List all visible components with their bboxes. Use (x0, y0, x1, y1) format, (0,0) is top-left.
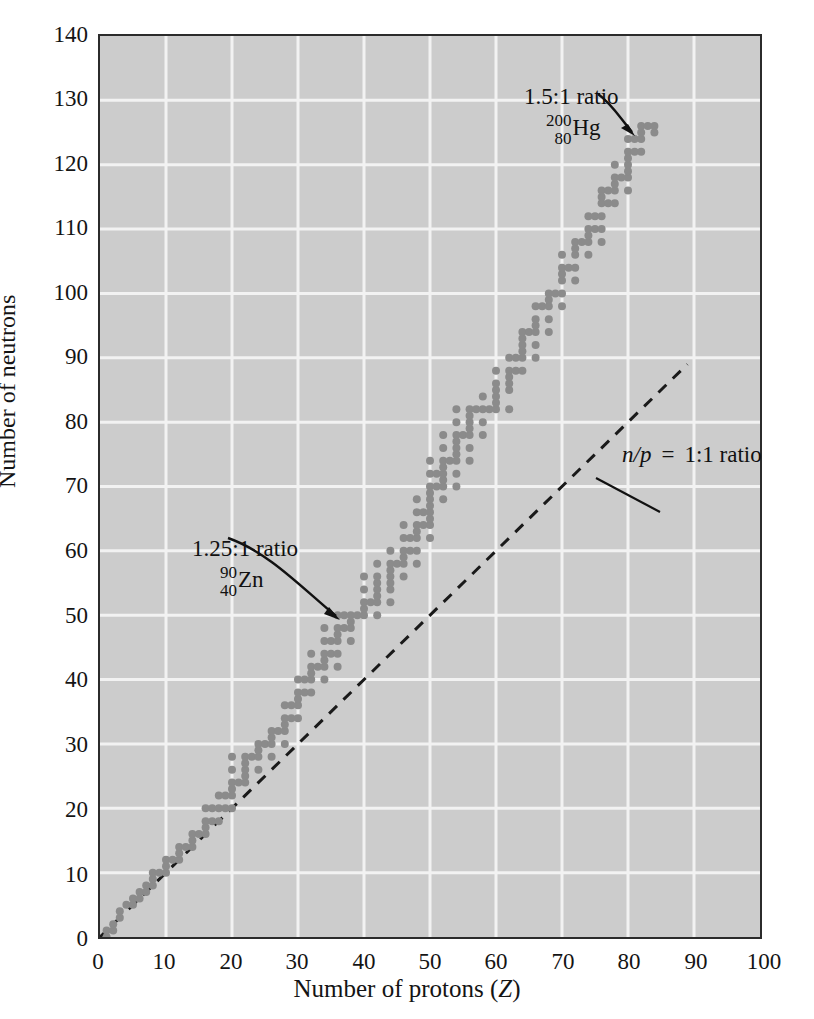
y-tick-70: 70 (32, 473, 88, 499)
annotation-hg-numbers: 20080 (546, 112, 572, 147)
annotation-zn-numbers: 9040 (220, 564, 237, 599)
y-tick-30: 30 (32, 732, 88, 758)
y-tick-90: 90 (32, 344, 88, 370)
annotation-hg-isotope: 20080Hg (546, 112, 601, 147)
band-of-stability-figure: Number of neutrons 140 130 120 110 100 9… (0, 0, 814, 1019)
y-axis-title: Number of neutrons (0, 295, 21, 488)
annotation-zn-isotope: 9040Zn (220, 564, 264, 599)
y-tick-140: 140 (32, 22, 88, 48)
x-axis-title-close: ) (512, 975, 520, 1002)
annotation-np-n: n (622, 442, 634, 467)
x-tick-10: 10 (153, 949, 176, 975)
y-tick-20: 20 (32, 797, 88, 823)
x-axis-title-main: Number of protons ( (293, 975, 498, 1002)
x-axis-title: Number of protons (Z) (293, 975, 520, 1003)
annotation-hg-ratio: 1.5:1 ratio (524, 85, 619, 109)
annotation-hg: 1.5:1 ratio 20080Hg (524, 85, 619, 147)
y-tick-110: 110 (32, 215, 88, 241)
y-tick-100: 100 (32, 280, 88, 306)
y-tick-60: 60 (32, 538, 88, 564)
x-tick-50: 50 (419, 949, 442, 975)
annotation-zn-ratio: 1.25:1 ratio (192, 537, 298, 561)
y-tick-80: 80 (32, 409, 88, 435)
x-tick-80: 80 (618, 949, 641, 975)
x-tick-90: 90 (685, 949, 708, 975)
x-tick-60: 60 (485, 949, 508, 975)
annotation-hg-atomic-number: 80 (546, 130, 572, 147)
plot-canvas (100, 36, 760, 937)
np-ratio-dashed-line (100, 364, 687, 937)
y-tick-50: 50 (32, 603, 88, 629)
data-points (103, 122, 659, 937)
annotation-zn: 1.25:1 ratio 9040Zn (192, 537, 298, 599)
y-tick-120: 120 (32, 151, 88, 177)
y-tick-130: 130 (32, 86, 88, 112)
annotation-hg-mass-number: 200 (546, 112, 572, 129)
annotation-np-ratio-text: 1:1 ratio (684, 442, 761, 467)
x-axis-title-symbol: Z (498, 975, 512, 1002)
y-tick-40: 40 (32, 667, 88, 693)
annotation-np-equals: = (661, 442, 674, 467)
x-tick-0: 0 (92, 949, 104, 975)
x-tick-40: 40 (353, 949, 376, 975)
x-tick-30: 30 (286, 949, 309, 975)
y-tick-0: 0 (32, 926, 88, 952)
annotation-zn-mass-number: 90 (220, 564, 237, 581)
annotation-zn-atomic-number: 40 (220, 582, 237, 599)
annotation-hg-symbol: Hg (573, 115, 601, 140)
y-tick-10: 10 (32, 862, 88, 888)
plot-area (98, 34, 762, 939)
annotation-np-p: p (640, 442, 652, 467)
x-tick-20: 20 (220, 949, 243, 975)
x-tick-70: 70 (552, 949, 575, 975)
annotation-np-ratio: n/p=1:1 ratio (622, 443, 762, 467)
x-tick-100: 100 (747, 949, 782, 975)
annotation-zn-symbol: Zn (238, 567, 264, 592)
